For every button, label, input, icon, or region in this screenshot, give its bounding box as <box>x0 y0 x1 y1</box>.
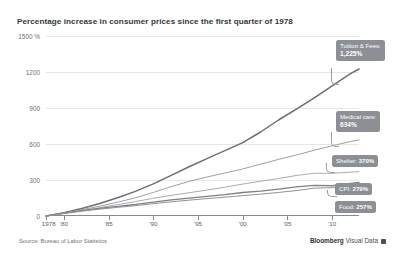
callout-leader-line <box>327 190 337 197</box>
x-axis-tick-label: '85 <box>105 220 113 227</box>
series-line <box>46 140 359 216</box>
y-axis-tick-label: 1200 <box>26 69 40 76</box>
callout-leader-line <box>326 163 335 173</box>
y-axis-tick-label: 900 <box>29 105 40 112</box>
series-callout-name: Tuition & Fees: <box>340 42 381 50</box>
series-callout-value: 279% <box>353 185 369 192</box>
series-lines-group <box>46 36 359 216</box>
series-line <box>46 185 359 216</box>
brand-name: Bloomberg <box>310 237 344 244</box>
series-line <box>46 69 359 216</box>
series-callout: Food: 257% <box>335 201 376 213</box>
x-axis-tick-label: '05 <box>283 220 291 227</box>
x-axis-tick-label: '10 <box>328 220 336 227</box>
source-note: Source: Bureau of Labor Statistics <box>19 238 107 244</box>
y-axis-tick-label: 0 <box>36 213 40 220</box>
series-callout: CPI: 279% <box>335 183 372 195</box>
series-callout-value: 370% <box>359 157 375 164</box>
series-callout-name: Shelter: <box>336 157 359 164</box>
brand-suffix: Visual Data <box>345 237 378 244</box>
x-axis-tick-mark <box>243 216 244 220</box>
plot-area: 1500 %12009006003000 1978'80'85'90'95'00… <box>46 36 359 216</box>
x-axis-tick-label: '80 <box>60 220 68 227</box>
series-callout: Tuition & Fees:1,225% <box>336 40 385 61</box>
y-axis-tick-label: 300 <box>29 177 40 184</box>
callout-leader-line <box>331 132 339 147</box>
x-axis-tick-mark <box>153 216 154 220</box>
series-callout-name: Medical care: <box>340 113 376 121</box>
x-axis-tick-mark <box>198 216 199 220</box>
series-callout-name: CPI: <box>339 185 353 192</box>
series-callout-value: 1,225% <box>340 50 381 58</box>
x-axis-tick-mark <box>332 216 333 220</box>
series-callout-value: 257% <box>356 203 372 210</box>
series-callout: Shelter: 370% <box>332 155 378 167</box>
square-logo-icon <box>381 239 386 244</box>
x-axis-tick-label: '95 <box>194 220 202 227</box>
x-axis-tick-mark <box>64 216 65 220</box>
x-axis-tick-mark <box>109 216 110 220</box>
x-axis-tick-label: 1978 <box>42 220 56 227</box>
series-callout-value: 634% <box>340 121 376 129</box>
y-axis-tick-label: 600 <box>29 141 40 148</box>
callout-leader-line <box>331 68 339 85</box>
brand-credit: Bloomberg Visual Data <box>310 237 386 244</box>
series-callout: Medical care:634% <box>336 111 380 132</box>
y-axis-tick-label: 1500 % <box>18 33 40 40</box>
x-axis-tick-label: '00 <box>239 220 247 227</box>
page-title: Percentage increase in consumer prices s… <box>17 17 293 26</box>
x-axis-tick-mark <box>287 216 288 220</box>
chart-container: Percentage increase in consumer prices s… <box>0 0 405 260</box>
series-callout-name: Food: <box>339 203 356 210</box>
x-axis-tick-label: '90 <box>149 220 157 227</box>
